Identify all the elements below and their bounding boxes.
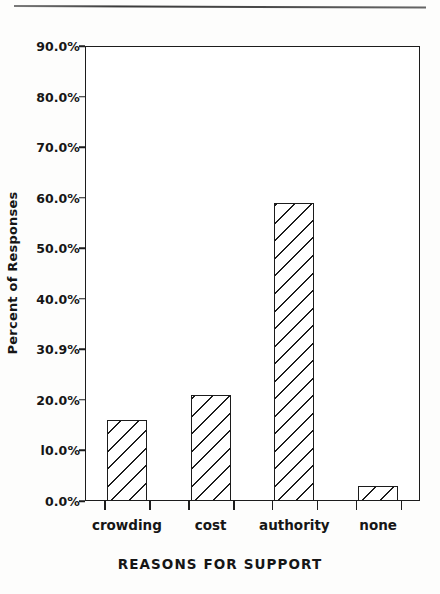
y-axis-tick-label: 40.0% bbox=[36, 291, 85, 306]
x-axis-category-label: none bbox=[359, 517, 397, 533]
x-axis-category-label: crowding bbox=[92, 517, 162, 533]
bar-crowding bbox=[107, 420, 147, 501]
y-axis-tick-mark bbox=[79, 197, 85, 199]
y-axis-tick-mark bbox=[79, 399, 85, 401]
y-axis-tick-label: 70.0% bbox=[36, 140, 85, 155]
y-axis-tick-label: 20.0% bbox=[36, 392, 85, 407]
x-axis-tick-mark bbox=[233, 501, 235, 510]
y-axis-tick-mark bbox=[79, 247, 85, 249]
y-axis-tick-label: 80.0% bbox=[36, 89, 85, 104]
y-axis-tick-mark bbox=[79, 500, 85, 502]
y-axis-tick-label: 30.9% bbox=[36, 342, 85, 357]
y-axis-tick-label: 60.0% bbox=[36, 190, 85, 205]
y-axis-tick-mark bbox=[79, 45, 85, 47]
x-axis-tick-mark bbox=[356, 501, 358, 510]
y-axis-tick-mark bbox=[79, 146, 85, 148]
bar-none bbox=[358, 486, 398, 501]
x-axis-tick-mark bbox=[149, 501, 151, 510]
x-axis-category-label: cost bbox=[195, 517, 227, 533]
x-axis-tick-mark bbox=[104, 501, 106, 510]
x-axis-category-label: authority bbox=[259, 517, 330, 533]
x-axis-tick-mark bbox=[317, 501, 319, 510]
plot-area: 0.0%l0.0%20.0%30.9%40.0%50.0%60.0%70.0%8… bbox=[85, 46, 420, 501]
bar-cost bbox=[191, 395, 231, 501]
y-axis-tick-mark bbox=[79, 349, 85, 351]
x-axis-tick-mark bbox=[188, 501, 190, 510]
x-axis-title: REASONS FOR SUPPORT bbox=[0, 556, 440, 572]
bar-chart-figure: 0.0%l0.0%20.0%30.9%40.0%50.0%60.0%70.0%8… bbox=[0, 0, 440, 594]
y-axis-tick-mark bbox=[79, 450, 85, 452]
y-axis-title: Percent of Responses bbox=[5, 192, 20, 355]
y-axis-tick-mark bbox=[79, 96, 85, 98]
x-axis-tick-mark bbox=[272, 501, 274, 510]
y-axis-tick-mark bbox=[79, 298, 85, 300]
x-axis-tick-mark bbox=[401, 501, 403, 510]
bar-authority bbox=[274, 203, 314, 501]
y-axis-tick-label: 90.0% bbox=[36, 39, 85, 54]
y-axis-tick-label: 50.0% bbox=[36, 241, 85, 256]
